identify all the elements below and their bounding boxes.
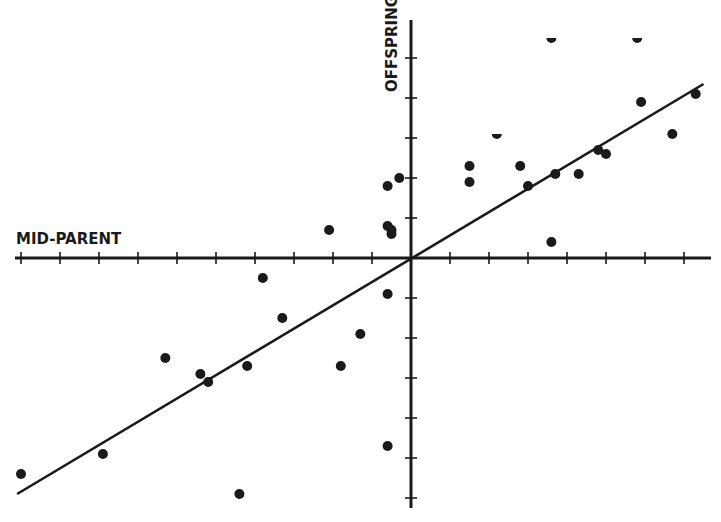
data-point: [383, 441, 393, 451]
data-point: [277, 313, 287, 323]
data-point: [546, 237, 556, 247]
data-point: [465, 161, 475, 171]
data-point: [465, 177, 475, 187]
data-point: [355, 329, 365, 339]
data-point: [98, 449, 108, 459]
data-point: [383, 289, 393, 299]
data-point: [387, 229, 397, 239]
data-point: [16, 469, 26, 479]
data-point: [195, 369, 205, 379]
regression-line: [17, 84, 703, 494]
data-point: [242, 361, 252, 371]
data-point: [492, 134, 502, 139]
data-point: [515, 161, 525, 171]
y-axis-label: OFFSPRING: [383, 0, 401, 92]
data-point: [667, 129, 677, 139]
data-point: [632, 38, 642, 43]
data-point: [523, 181, 533, 191]
data-point: [234, 489, 244, 499]
data-point: [636, 97, 646, 107]
data-point: [160, 353, 170, 363]
data-point: [336, 361, 346, 371]
data-points: [16, 38, 701, 499]
data-point: [203, 377, 213, 387]
data-point: [550, 169, 560, 179]
data-point: [546, 38, 556, 43]
x-axis-label: MID-PARENT: [16, 230, 121, 248]
data-point: [691, 89, 701, 99]
data-point: [383, 181, 393, 191]
scatter-plot: [0, 0, 721, 522]
fit-line: [17, 84, 703, 494]
data-point: [324, 225, 334, 235]
data-point: [258, 273, 268, 283]
data-point: [601, 149, 611, 159]
data-point: [394, 173, 404, 183]
data-point: [574, 169, 584, 179]
